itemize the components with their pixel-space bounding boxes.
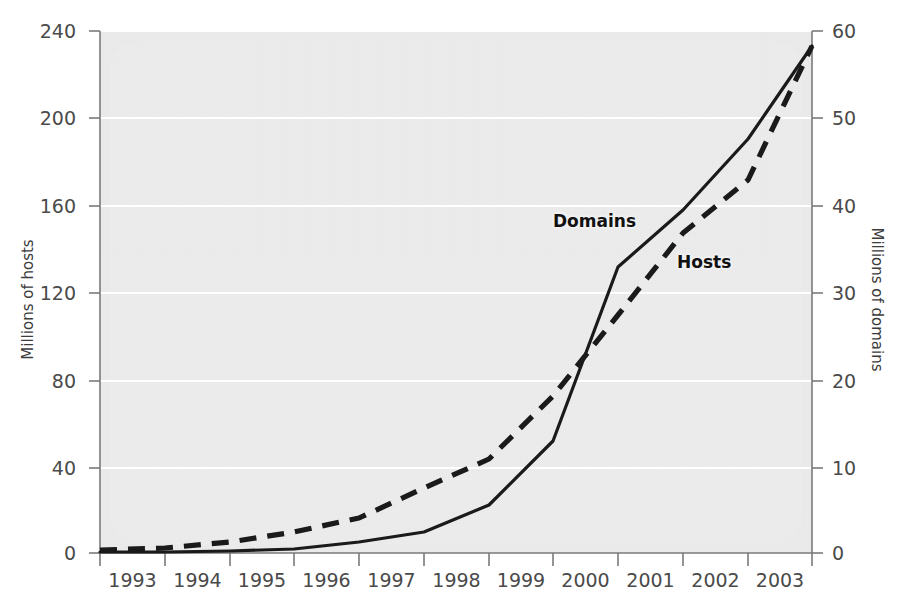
tick-label-x-1995: 1995 — [230, 571, 294, 590]
tick-label-x-1999: 1999 — [489, 571, 553, 590]
series-line-hosts — [100, 46, 812, 550]
tick-label-x-2003: 2003 — [748, 571, 812, 590]
tick-label-right-50: 50 — [832, 109, 882, 128]
tick-label-left-40: 40 — [14, 459, 76, 478]
tick-label-x-1997: 1997 — [359, 571, 424, 590]
chart-container: 240 200 160 120 80 40 0 60 50 40 30 20 1… — [0, 0, 900, 607]
chart-svg — [0, 0, 900, 607]
gridlines — [100, 31, 812, 468]
axis-left-ticks — [89, 31, 100, 553]
axis-right-ticks — [812, 31, 823, 553]
tick-label-left-0: 0 — [14, 544, 76, 563]
series-label-domains: Domains — [553, 213, 636, 230]
series-label-hosts: Hosts — [677, 254, 731, 271]
y-axis-right-title: Millions of domains — [869, 220, 884, 380]
tick-label-x-2000: 2000 — [553, 571, 618, 590]
tick-label-left-160: 160 — [14, 197, 76, 216]
tick-label-x-1993: 1993 — [100, 571, 165, 590]
tick-label-x-1998: 1998 — [424, 571, 489, 590]
y-axis-left-title: Millions of hosts — [21, 220, 36, 380]
tick-label-x-2001: 2001 — [618, 571, 683, 590]
axis-bottom-ticks — [100, 553, 812, 566]
tick-label-x-2002: 2002 — [683, 571, 748, 590]
tick-label-left-200: 200 — [14, 109, 76, 128]
tick-label-right-10: 10 — [832, 459, 882, 478]
tick-label-right-0: 0 — [832, 544, 882, 563]
tick-label-left-240: 240 — [14, 22, 76, 41]
tick-label-x-1996: 1996 — [294, 571, 359, 590]
tick-label-x-1994: 1994 — [165, 571, 230, 590]
tick-label-right-60: 60 — [832, 22, 882, 41]
tick-label-right-40: 40 — [832, 197, 882, 216]
